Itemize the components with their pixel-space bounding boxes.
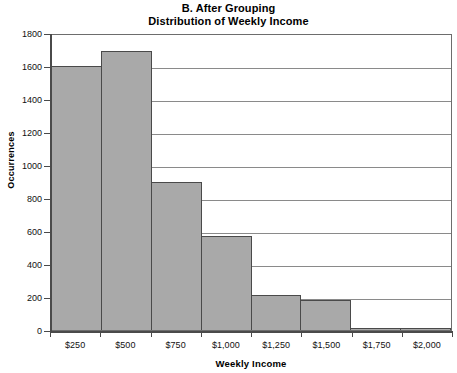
x-axis-tick	[50, 331, 51, 337]
y-axis-tick	[44, 298, 50, 299]
bar	[350, 328, 401, 330]
y-axis-tick-label: 1600	[0, 63, 42, 72]
chart-subtitle: Distribution of Weekly Income	[0, 15, 457, 28]
bar	[300, 300, 351, 330]
x-axis-tick	[251, 331, 252, 337]
x-axis-tick	[352, 331, 353, 337]
y-axis-tick-label: 1800	[0, 30, 42, 39]
x-axis-tick	[201, 331, 202, 337]
y-axis-tick-label: 200	[0, 294, 42, 303]
bar	[151, 182, 202, 331]
y-axis-tick	[44, 34, 50, 35]
y-axis-tick-label: 1400	[0, 96, 42, 105]
x-axis-tick	[402, 331, 403, 337]
chart-title: B. After Grouping	[0, 2, 457, 15]
y-axis-tick-label: 600	[0, 228, 42, 237]
chart-title-block: B. After Grouping Distribution of Weekly…	[0, 2, 457, 28]
bar	[101, 51, 152, 330]
y-axis-tick-label: 400	[0, 261, 42, 270]
x-axis-tick	[151, 331, 152, 337]
y-axis-tick	[44, 67, 50, 68]
y-axis-tick	[44, 232, 50, 233]
y-axis-tick	[44, 100, 50, 101]
x-axis-tick	[301, 331, 302, 337]
bar	[400, 328, 451, 330]
bar	[201, 236, 252, 330]
y-axis-tick	[44, 166, 50, 167]
bar	[51, 66, 102, 330]
plot-area	[50, 34, 452, 331]
y-axis-tick	[44, 133, 50, 134]
chart-figure: B. After Grouping Distribution of Weekly…	[0, 0, 457, 373]
x-axis-tick-label: $2,000	[397, 340, 457, 350]
y-axis-tick	[44, 199, 50, 200]
y-axis-tick-label: 0	[0, 327, 42, 336]
y-axis-title: Occurrences	[6, 118, 16, 202]
bars-layer	[51, 35, 451, 330]
y-axis-line	[50, 34, 52, 332]
x-axis-title: Weekly Income	[50, 358, 452, 369]
x-axis-tick	[452, 331, 453, 337]
y-axis-tick	[44, 265, 50, 266]
bar	[251, 295, 302, 330]
x-axis-tick	[100, 331, 101, 337]
